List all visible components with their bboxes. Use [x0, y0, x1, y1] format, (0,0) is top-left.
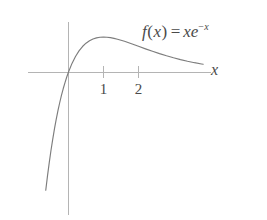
- function-plot-figure: 1 2 x f(x)=xe−x: [0, 0, 267, 220]
- x-tick-label-2: 2: [129, 82, 149, 97]
- equation-arg: x: [153, 22, 161, 41]
- equation-equals: =: [168, 22, 184, 41]
- equation-x-factor: x: [183, 22, 191, 41]
- x-axis-label: x: [211, 62, 218, 78]
- equation-close-paren: ): [161, 22, 168, 41]
- equation-exponent-var: x: [204, 21, 209, 32]
- plot-canvas: [0, 0, 267, 220]
- x-tick-label-1: 1: [94, 82, 114, 97]
- equation-exponent: −x: [198, 21, 208, 32]
- function-curve: [46, 37, 204, 190]
- function-equation-label: f(x)=xe−x: [142, 22, 209, 40]
